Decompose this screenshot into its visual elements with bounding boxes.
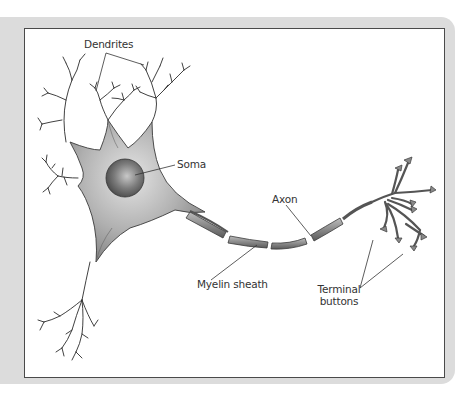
terminal-branches — [372, 163, 432, 246]
neuron-illustration — [0, 0, 470, 394]
axon-label: Axon — [272, 193, 297, 205]
axon-drawing — [186, 202, 372, 249]
terminal-buttons-label-line2: buttons — [316, 295, 362, 307]
dendrites-label: Dendrites — [84, 38, 133, 50]
terminal-buttons-label-line1: Terminal — [316, 283, 362, 295]
terminal-buttons-label: Terminal buttons — [316, 283, 362, 307]
nucleus — [106, 159, 144, 197]
myelin-sheath-label: Myelin sheath — [197, 278, 268, 290]
soma-label: Soma — [177, 158, 206, 170]
